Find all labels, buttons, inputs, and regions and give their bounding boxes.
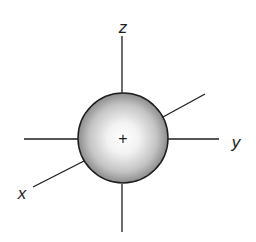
x-axis-front (33, 161, 84, 187)
nucleus-plus-icon: + (118, 130, 127, 147)
orbital-diagram: + z y x (0, 0, 256, 242)
x-axis-label: x (17, 184, 27, 203)
z-axis-label: z (118, 18, 128, 37)
x-axis-back (163, 94, 205, 117)
y-axis-label: y (231, 133, 242, 152)
